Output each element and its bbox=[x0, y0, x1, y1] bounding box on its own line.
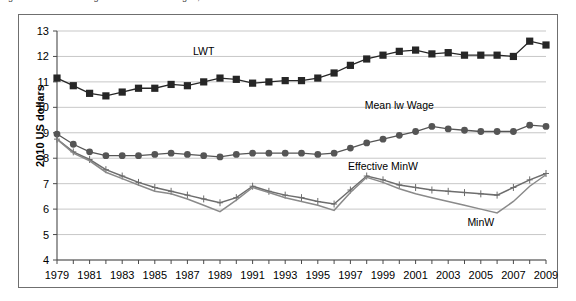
series-marker-square bbox=[428, 50, 435, 57]
series-marker-circle bbox=[135, 152, 142, 159]
series-marker-square bbox=[249, 80, 256, 87]
series-marker-circle bbox=[543, 123, 550, 130]
y-tick-label: 7 bbox=[43, 178, 49, 190]
series-marker-square bbox=[494, 52, 501, 59]
series-marker-circle bbox=[412, 128, 419, 135]
x-tick-label: 1979 bbox=[45, 269, 69, 281]
x-tick-label: 2007 bbox=[501, 269, 525, 281]
series-marker-circle bbox=[298, 150, 305, 157]
y-tick-label: 12 bbox=[37, 50, 49, 62]
series-marker-circle bbox=[184, 151, 191, 158]
series-marker-square bbox=[86, 90, 93, 97]
series-marker-cross bbox=[299, 194, 305, 201]
chart-plot-area: 4567891011121319791981198319851987198919… bbox=[19, 15, 559, 289]
series-marker-square bbox=[70, 82, 77, 89]
series-marker-circle bbox=[249, 150, 256, 157]
series-marker-circle bbox=[217, 154, 224, 161]
series-marker-cross bbox=[478, 190, 484, 197]
series-marker-cross bbox=[510, 184, 516, 191]
series-label-lwt: LWT bbox=[193, 45, 215, 57]
series-marker-circle bbox=[526, 122, 533, 129]
series-marker-circle bbox=[331, 150, 338, 157]
series-marker-square bbox=[477, 52, 484, 59]
x-tick-label: 2001 bbox=[403, 269, 427, 281]
y-tick-label: 10 bbox=[37, 101, 49, 113]
series-marker-cross bbox=[462, 189, 468, 196]
series-line-lwt bbox=[57, 41, 546, 96]
series-marker-circle bbox=[396, 132, 403, 139]
y-tick-label: 13 bbox=[37, 25, 49, 37]
series-marker-circle bbox=[282, 150, 289, 157]
figure-caption-clipped: Figure 1. Trends in wages and minimum wa… bbox=[0, 0, 576, 4]
x-tick-label: 1981 bbox=[77, 269, 101, 281]
series-marker-square bbox=[102, 92, 109, 99]
series-label-mean-lw-wage: Mean lw Wage bbox=[365, 99, 434, 111]
x-tick-label: 1989 bbox=[208, 269, 232, 281]
series-marker-circle bbox=[233, 151, 240, 158]
series-marker-square bbox=[200, 78, 207, 85]
series-marker-circle bbox=[86, 148, 93, 155]
x-tick-label: 1993 bbox=[273, 269, 297, 281]
x-tick-label: 2009 bbox=[534, 269, 558, 281]
x-tick-label: 2003 bbox=[436, 269, 460, 281]
series-marker-circle bbox=[445, 126, 452, 133]
y-tick-label: 11 bbox=[38, 76, 49, 88]
series-marker-square bbox=[53, 74, 60, 81]
series-marker-cross bbox=[315, 198, 321, 205]
y-tick-label: 9 bbox=[43, 127, 49, 139]
x-tick-label: 1999 bbox=[371, 269, 395, 281]
series-marker-circle bbox=[119, 152, 126, 159]
series-marker-square bbox=[151, 85, 158, 92]
series-marker-square bbox=[526, 38, 533, 45]
series-marker-square bbox=[298, 77, 305, 84]
series-marker-cross bbox=[445, 188, 451, 195]
x-tick-label: 1995 bbox=[306, 269, 330, 281]
series-marker-square bbox=[461, 52, 468, 59]
series-marker-circle bbox=[266, 150, 273, 157]
x-tick-label: 1985 bbox=[143, 269, 167, 281]
series-marker-cross bbox=[413, 184, 419, 191]
series-marker-square bbox=[216, 74, 223, 81]
series-marker-circle bbox=[429, 123, 436, 130]
series-marker-square bbox=[412, 46, 419, 53]
x-tick-label: 2005 bbox=[469, 269, 493, 281]
series-marker-circle bbox=[477, 128, 484, 135]
series-marker-cross bbox=[429, 187, 435, 194]
series-marker-square bbox=[347, 62, 354, 69]
series-marker-square bbox=[445, 49, 452, 56]
series-marker-square bbox=[331, 69, 338, 76]
series-label-minw: MinW bbox=[467, 216, 494, 228]
series-marker-circle bbox=[70, 141, 77, 148]
series-marker-square bbox=[396, 48, 403, 55]
series-marker-square bbox=[379, 52, 386, 59]
series-marker-square bbox=[314, 74, 321, 81]
y-tick-label: 4 bbox=[43, 254, 49, 266]
series-marker-square bbox=[119, 88, 126, 95]
series-marker-cross bbox=[201, 195, 207, 202]
series-marker-cross bbox=[217, 199, 223, 206]
series-marker-square bbox=[282, 77, 289, 84]
series-marker-cross bbox=[494, 192, 500, 199]
series-marker-circle bbox=[151, 151, 158, 158]
series-marker-square bbox=[265, 78, 272, 85]
series-marker-circle bbox=[510, 128, 517, 135]
figure-container: Figure 1. Trends in wages and minimum wa… bbox=[0, 0, 576, 301]
series-marker-square bbox=[542, 41, 549, 48]
series-marker-circle bbox=[200, 152, 207, 159]
series-marker-square bbox=[168, 81, 175, 88]
series-marker-square bbox=[135, 85, 142, 92]
series-marker-circle bbox=[168, 150, 175, 157]
series-marker-circle bbox=[380, 136, 387, 143]
series-marker-circle bbox=[494, 128, 501, 135]
series-marker-circle bbox=[363, 140, 370, 147]
series-marker-square bbox=[184, 82, 191, 89]
series-marker-square bbox=[510, 53, 517, 60]
series-label-effective-minw: Effective MinW bbox=[348, 160, 418, 172]
x-tick-label: 1983 bbox=[110, 269, 134, 281]
series-marker-square bbox=[363, 55, 370, 62]
series-marker-circle bbox=[314, 151, 321, 158]
series-marker-cross bbox=[527, 176, 533, 183]
chart-frame: 2010 US dollars 456789101112131979198119… bbox=[18, 14, 558, 288]
y-tick-label: 6 bbox=[43, 203, 49, 215]
series-marker-square bbox=[233, 76, 240, 83]
